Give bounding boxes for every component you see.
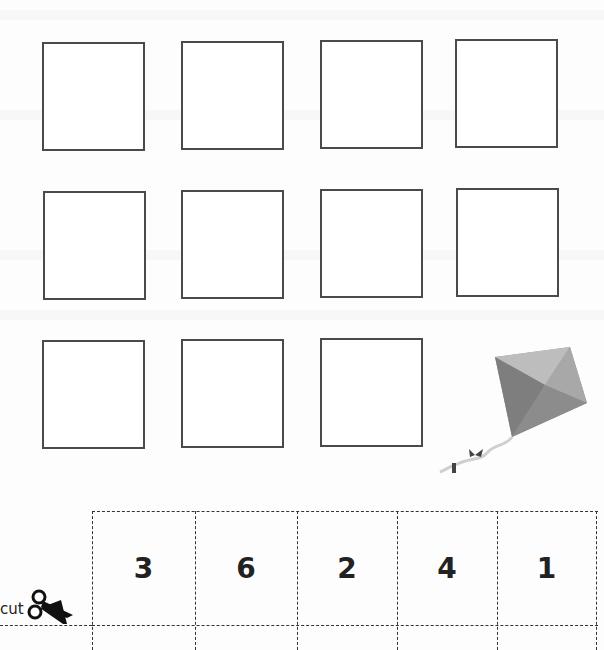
answer-box[interactable] bbox=[320, 338, 423, 447]
answer-box[interactable] bbox=[456, 188, 559, 297]
scissors-icon bbox=[27, 588, 77, 624]
cut-line bbox=[0, 625, 92, 626]
answer-box[interactable] bbox=[320, 189, 423, 298]
number-card[interactable]: 6 bbox=[195, 511, 297, 626]
number-card[interactable]: 2 bbox=[297, 511, 397, 626]
answer-box[interactable] bbox=[181, 41, 284, 150]
kite-icon bbox=[425, 325, 604, 475]
answer-box[interactable] bbox=[42, 340, 145, 449]
number-card[interactable]: 4 bbox=[397, 511, 497, 626]
number-card[interactable]: 1 bbox=[497, 511, 596, 626]
answer-box[interactable] bbox=[455, 39, 558, 148]
cut-out-strip: 3 6 2 4 1 bbox=[92, 511, 598, 650]
answer-box[interactable] bbox=[181, 339, 284, 448]
number-card[interactable]: 3 bbox=[92, 511, 195, 626]
answer-box[interactable] bbox=[43, 191, 146, 300]
answer-box[interactable] bbox=[320, 40, 423, 149]
answer-box[interactable] bbox=[42, 42, 145, 151]
cut-label: cut bbox=[0, 600, 24, 618]
answer-box[interactable] bbox=[181, 190, 284, 299]
